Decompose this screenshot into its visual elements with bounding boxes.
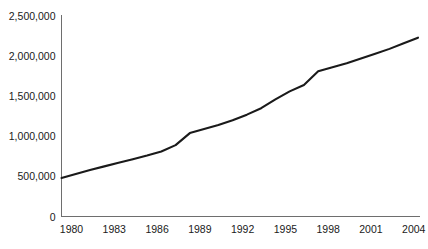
x-tick-label: 1998 [317,223,341,235]
y-tick-label: 500,000 [18,170,56,182]
chart-plot-area: 0500,0001,000,0001,500,0002,000,0002,500… [0,0,428,249]
line-chart: 0500,0001,000,0001,500,0002,000,0002,500… [0,0,428,249]
series-line [62,38,419,178]
x-tick-label-group: 198019831986198919921995199820012004 [60,223,426,235]
y-tick-label: 2,000,000 [9,50,56,62]
y-tick-label: 0 [50,211,56,223]
x-tick-label: 1980 [60,223,84,235]
x-tick-label: 1986 [145,223,169,235]
x-tick-label: 1983 [103,223,127,235]
y-tick-label: 1,000,000 [9,130,56,142]
x-tick-label: 1995 [274,223,298,235]
x-tick-label: 1992 [231,223,255,235]
x-tick-label: 2001 [359,223,383,235]
x-tick-label: 2004 [402,223,426,235]
data-series-group [62,38,419,178]
x-tick-label: 1989 [188,223,212,235]
y-tick-label: 1,500,000 [9,90,56,102]
y-tick-label-group: 0500,0001,000,0001,500,0002,000,0002,500… [9,10,56,223]
y-tick-label: 2,500,000 [9,10,56,22]
